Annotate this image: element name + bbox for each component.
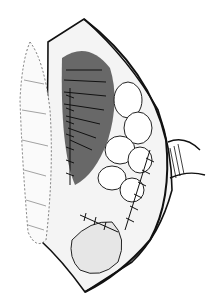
retractor	[168, 140, 205, 178]
left-tissue	[20, 42, 51, 244]
illustration-canvas	[0, 0, 221, 303]
